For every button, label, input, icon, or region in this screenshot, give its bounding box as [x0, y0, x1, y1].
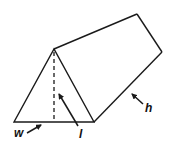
h-arrow-icon	[132, 94, 143, 104]
label-l: l	[79, 127, 83, 141]
top-ridge-edge	[54, 14, 137, 49]
w-arrow-icon	[27, 125, 41, 133]
label-h: h	[145, 101, 152, 115]
l-arrow-icon	[59, 94, 78, 126]
label-w: w	[14, 126, 24, 140]
back-slant-edge	[137, 14, 162, 52]
triangular-prism-diagram: w l h	[0, 0, 169, 144]
